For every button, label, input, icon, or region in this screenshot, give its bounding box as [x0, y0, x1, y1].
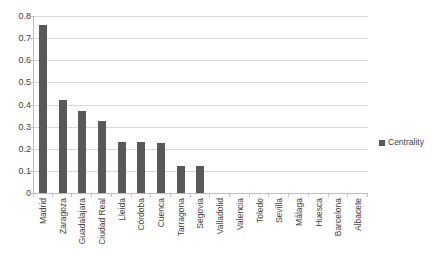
y-axis-labels: 0.80.70.60.50.40.30.20.10: [0, 16, 31, 193]
x-axis-label-cell: Toledo: [250, 198, 270, 266]
y-axis-tick-label: 0.2: [3, 145, 31, 154]
x-axis-label-cell: Huesca: [309, 198, 329, 266]
bar: [196, 166, 204, 193]
y-axis-tick-label: 0.6: [3, 56, 31, 65]
y-axis-tick: [29, 38, 33, 39]
x-axis-label-cell: Cuenca: [151, 198, 171, 266]
bar-slot: [112, 16, 132, 193]
x-axis-tick-label: Madrid: [38, 198, 47, 224]
x-axis-label-cell: Zaragoza: [53, 198, 73, 266]
x-axis-label-cell: Córdoba: [132, 198, 152, 266]
x-axis-tick-label: Valencia: [235, 198, 244, 230]
x-axis-tick: [33, 193, 53, 197]
bar-slot: [348, 16, 368, 193]
x-axis-tick-label: Ciudad Real: [97, 198, 106, 245]
bars-layer: [33, 16, 368, 193]
y-axis-tick: [29, 171, 33, 172]
x-axis-tick-label: Cuenca: [157, 198, 166, 227]
bar-slot: [309, 16, 329, 193]
y-axis-tick: [29, 105, 33, 106]
x-axis-label-cell: Albacete: [348, 198, 368, 266]
y-axis-tick-label: 0.1: [3, 167, 31, 176]
x-axis-tick: [269, 193, 289, 197]
y-axis-tick-label: 0: [3, 189, 31, 198]
x-axis-tick-label: Albacete: [354, 198, 363, 231]
x-axis-tick-label: Córdoba: [137, 198, 146, 231]
x-axis-tick-label: Málaga: [294, 198, 303, 226]
x-axis-tick-label: Sevilla: [275, 198, 284, 223]
x-axis-tick: [132, 193, 152, 197]
x-axis-tick: [250, 193, 270, 197]
y-axis-tick: [29, 82, 33, 83]
chart-legend: Centrality: [379, 138, 424, 147]
x-axis-label-cell: Guadalajara: [72, 198, 92, 266]
x-axis-tick-label: Valladolid: [216, 198, 225, 234]
bar: [177, 166, 185, 193]
bar-slot: [250, 16, 270, 193]
bar: [157, 143, 165, 193]
bar-slot: [191, 16, 211, 193]
bar-slot: [132, 16, 152, 193]
x-axis-label-cell: Segovia: [191, 198, 211, 266]
y-axis-tick: [29, 149, 33, 150]
centrality-bar-chart: 0.80.70.60.50.40.30.20.10 MadridZaragoza…: [0, 0, 443, 269]
bar-slot: [210, 16, 230, 193]
x-axis-tick: [348, 193, 368, 197]
bar-slot: [151, 16, 171, 193]
legend-label: Centrality: [388, 138, 424, 147]
x-axis-tick: [112, 193, 132, 197]
x-axis-tick-label: Guadalajara: [78, 198, 87, 244]
y-axis-tick: [29, 127, 33, 128]
bar-slot: [171, 16, 191, 193]
x-axis-tick: [53, 193, 73, 197]
y-axis-tick-label: 0.5: [3, 78, 31, 87]
x-axis-label-cell: Tarragona: [171, 198, 191, 266]
bar: [39, 25, 47, 193]
bar: [118, 142, 126, 193]
x-axis-label-cell: Valladolid: [210, 198, 230, 266]
y-axis-tick: [29, 193, 33, 194]
x-axis-tick-label: Tarragona: [176, 198, 185, 236]
bar-slot: [72, 16, 92, 193]
x-axis-label-cell: Málaga: [289, 198, 309, 266]
bar-slot: [269, 16, 289, 193]
x-axis-tick: [72, 193, 92, 197]
x-axis-tick-label: Zaragoza: [58, 198, 67, 234]
x-axis-tick-label: Lleida: [117, 198, 126, 221]
y-axis-tick: [29, 16, 33, 17]
y-axis-tick-label: 0.8: [3, 12, 31, 21]
bar-slot: [53, 16, 73, 193]
x-axis-tick: [191, 193, 211, 197]
x-axis-tick: [309, 193, 329, 197]
x-axis-tick-label: Toledo: [255, 198, 264, 223]
bar: [59, 100, 67, 193]
x-axis-tick: [230, 193, 250, 197]
x-axis-label-cell: Lleida: [112, 198, 132, 266]
bar-slot: [92, 16, 112, 193]
x-axis-tick: [92, 193, 112, 197]
y-axis-tick-label: 0.3: [3, 123, 31, 132]
bar: [137, 142, 145, 193]
y-axis-tick: [29, 60, 33, 61]
legend-swatch-icon: [379, 140, 385, 146]
x-axis-tick: [151, 193, 171, 197]
x-axis-label-cell: Valencia: [230, 198, 250, 266]
x-axis-label-cell: Sevilla: [269, 198, 289, 266]
y-axis-tick-label: 0.7: [3, 34, 31, 43]
bar: [78, 111, 86, 193]
y-axis-tick-label: 0.4: [3, 101, 31, 110]
bar-slot: [329, 16, 349, 193]
x-axis-tick: [210, 193, 230, 197]
x-axis-tick-label: Segovia: [196, 198, 205, 229]
bar-slot: [289, 16, 309, 193]
bar: [98, 121, 106, 193]
x-axis-label-cell: Barcelona: [329, 198, 349, 266]
x-axis-tick: [329, 193, 349, 197]
x-axis-tick-label: Huesca: [314, 198, 323, 227]
x-axis-label-cell: Madrid: [33, 198, 53, 266]
x-axis-tick-label: Barcelona: [334, 198, 343, 236]
x-axis-tick: [289, 193, 309, 197]
x-axis-ticks: [33, 193, 368, 197]
x-axis-tick: [171, 193, 191, 197]
x-axis-label-cell: Ciudad Real: [92, 198, 112, 266]
